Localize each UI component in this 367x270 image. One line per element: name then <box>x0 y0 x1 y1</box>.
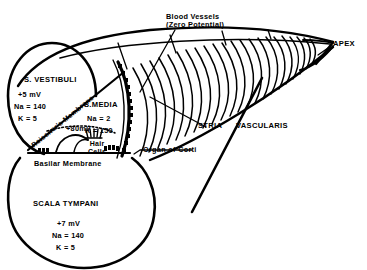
organ-of-corti-arch <box>56 135 88 152</box>
scala-tympani-name: SCALA TYMPANI <box>33 200 99 209</box>
hair-cells-line1: Hair <box>90 140 105 147</box>
blood-vessels-line2: (Zero Potential) <box>166 20 224 29</box>
hair-cells-line2: Cells <box>88 148 106 155</box>
cochlea-diagram: Blood Vessels (Zero Potential) APEX S. V… <box>0 0 367 270</box>
scala-vestibuli-name: S. VESTIBULI <box>24 76 77 85</box>
stria-label: STRIA <box>198 122 222 131</box>
pillar-cell <box>74 140 88 153</box>
scala-vestibuli-potassium: K = 5 <box>18 115 37 123</box>
endolymph-potential-label: +80mV <box>66 125 91 133</box>
vascularis-label: VASCULARIS <box>236 122 288 131</box>
scala-tympani-sodium: Na = 140 <box>52 232 84 240</box>
cone-roof-facets <box>118 30 271 69</box>
blood-vessels-label: Blood Vessels (Zero Potential) <box>166 13 224 30</box>
vascularis-pointer-line <box>192 78 262 212</box>
supporting-cells-stipple <box>38 145 119 152</box>
cochlear-turn-ribs <box>133 36 315 156</box>
scala-tympani-outline <box>8 158 155 268</box>
diagram-linework <box>0 0 367 270</box>
scala-tympani-potential: +7 mV <box>57 220 80 228</box>
scala-media-sodium: Na = 2 <box>87 115 111 123</box>
organ-of-corti-label: Organ of Corti <box>143 146 197 154</box>
apex-label: APEX <box>333 40 355 49</box>
scala-vestibuli-potential: +5 mV <box>18 91 41 99</box>
hair-cells-label: Hair Cells <box>88 140 106 156</box>
basilar-membrane-label: Basilar Membrane <box>34 160 102 168</box>
scala-tympani-potassium: K = 5 <box>56 244 75 252</box>
scala-vestibuli-sodium: Na = 140 <box>14 103 46 111</box>
